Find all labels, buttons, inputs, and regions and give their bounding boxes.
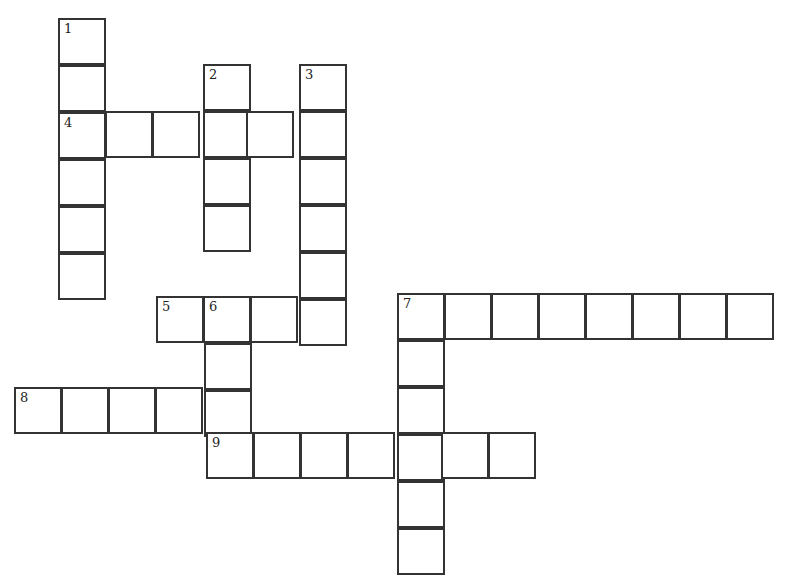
crossword-cell[interactable] bbox=[679, 293, 727, 340]
crossword-cell[interactable] bbox=[203, 158, 251, 205]
letter-input[interactable] bbox=[60, 255, 104, 298]
letter-input[interactable] bbox=[255, 434, 299, 477]
letter-input[interactable] bbox=[154, 113, 198, 156]
letter-input[interactable] bbox=[399, 483, 443, 526]
crossword-cell[interactable] bbox=[61, 387, 109, 434]
letter-input[interactable] bbox=[446, 295, 490, 338]
letter-input[interactable] bbox=[205, 298, 249, 341]
crossword-cell[interactable] bbox=[299, 205, 347, 252]
letter-input[interactable] bbox=[208, 434, 252, 477]
letter-input[interactable] bbox=[399, 342, 443, 385]
crossword-grid: 142356789 bbox=[0, 0, 794, 585]
crossword-cell[interactable] bbox=[397, 481, 445, 528]
letter-input[interactable] bbox=[587, 295, 631, 338]
letter-input[interactable] bbox=[60, 208, 104, 251]
letter-input[interactable] bbox=[399, 295, 443, 338]
crossword-cell[interactable] bbox=[250, 296, 298, 343]
letter-input[interactable] bbox=[399, 436, 443, 479]
crossword-cell[interactable] bbox=[299, 252, 347, 299]
crossword-cell[interactable] bbox=[585, 293, 633, 340]
letter-input[interactable] bbox=[301, 113, 345, 156]
letter-input[interactable] bbox=[301, 301, 345, 344]
letter-input[interactable] bbox=[252, 298, 296, 341]
crossword-cell[interactable] bbox=[397, 528, 445, 575]
crossword-cell[interactable] bbox=[488, 432, 536, 479]
letter-input[interactable] bbox=[205, 66, 249, 109]
crossword-cell[interactable] bbox=[299, 299, 347, 346]
crossword-cell[interactable] bbox=[491, 293, 539, 340]
crossword-cell[interactable] bbox=[347, 432, 395, 479]
letter-input[interactable] bbox=[205, 207, 249, 250]
crossword-cell[interactable] bbox=[397, 387, 445, 434]
crossword-cell[interactable] bbox=[204, 390, 252, 437]
letter-input[interactable] bbox=[301, 207, 345, 250]
crossword-cell[interactable] bbox=[58, 159, 106, 206]
letter-input[interactable] bbox=[301, 66, 345, 109]
letter-input[interactable] bbox=[206, 392, 250, 435]
crossword-cell[interactable] bbox=[397, 434, 445, 481]
crossword-cell[interactable]: 4 bbox=[58, 112, 106, 159]
crossword-cell[interactable] bbox=[105, 111, 153, 158]
letter-input[interactable] bbox=[349, 434, 393, 477]
crossword-cell[interactable] bbox=[203, 205, 251, 252]
letter-input[interactable] bbox=[157, 389, 201, 432]
letter-input[interactable] bbox=[490, 434, 534, 477]
crossword-cell[interactable] bbox=[58, 65, 106, 112]
crossword-cell[interactable] bbox=[726, 293, 774, 340]
letter-input[interactable] bbox=[158, 298, 202, 341]
crossword-cell[interactable] bbox=[253, 432, 301, 479]
letter-input[interactable] bbox=[60, 114, 104, 157]
crossword-cell[interactable]: 8 bbox=[14, 387, 62, 434]
crossword-cell[interactable] bbox=[155, 387, 203, 434]
crossword-cell[interactable]: 5 bbox=[156, 296, 204, 343]
letter-input[interactable] bbox=[302, 434, 346, 477]
letter-input[interactable] bbox=[60, 161, 104, 204]
crossword-cell[interactable] bbox=[152, 111, 200, 158]
crossword-cell[interactable] bbox=[246, 111, 294, 158]
letter-input[interactable] bbox=[681, 295, 725, 338]
letter-input[interactable] bbox=[634, 295, 678, 338]
letter-input[interactable] bbox=[301, 254, 345, 297]
crossword-cell[interactable]: 7 bbox=[397, 293, 445, 340]
crossword-cell[interactable]: 6 bbox=[203, 296, 251, 343]
crossword-cell[interactable] bbox=[300, 432, 348, 479]
letter-input[interactable] bbox=[63, 389, 107, 432]
crossword-cell[interactable] bbox=[58, 206, 106, 253]
letter-input[interactable] bbox=[540, 295, 584, 338]
letter-input[interactable] bbox=[205, 113, 249, 156]
letter-input[interactable] bbox=[110, 389, 154, 432]
crossword-cell[interactable] bbox=[632, 293, 680, 340]
letter-input[interactable] bbox=[728, 295, 772, 338]
crossword-cell[interactable] bbox=[441, 432, 489, 479]
letter-input[interactable] bbox=[205, 160, 249, 203]
letter-input[interactable] bbox=[248, 113, 292, 156]
crossword-cell[interactable] bbox=[203, 111, 251, 158]
crossword-cell[interactable]: 1 bbox=[58, 18, 106, 65]
crossword-cell[interactable] bbox=[204, 343, 252, 390]
crossword-cell[interactable] bbox=[299, 111, 347, 158]
letter-input[interactable] bbox=[107, 113, 151, 156]
letter-input[interactable] bbox=[399, 389, 443, 432]
letter-input[interactable] bbox=[206, 345, 250, 388]
letter-input[interactable] bbox=[493, 295, 537, 338]
crossword-cell[interactable] bbox=[444, 293, 492, 340]
letter-input[interactable] bbox=[16, 389, 60, 432]
letter-input[interactable] bbox=[301, 160, 345, 203]
crossword-cell[interactable] bbox=[299, 158, 347, 205]
crossword-cell[interactable] bbox=[108, 387, 156, 434]
crossword-cell[interactable] bbox=[58, 253, 106, 300]
crossword-cell[interactable]: 9 bbox=[206, 432, 254, 479]
crossword-cell[interactable]: 2 bbox=[203, 64, 251, 111]
crossword-cell[interactable]: 3 bbox=[299, 64, 347, 111]
crossword-cell[interactable] bbox=[538, 293, 586, 340]
letter-input[interactable] bbox=[399, 530, 443, 573]
letter-input[interactable] bbox=[60, 67, 104, 110]
letter-input[interactable] bbox=[443, 434, 487, 477]
letter-input[interactable] bbox=[60, 20, 104, 63]
crossword-cell[interactable] bbox=[397, 340, 445, 387]
